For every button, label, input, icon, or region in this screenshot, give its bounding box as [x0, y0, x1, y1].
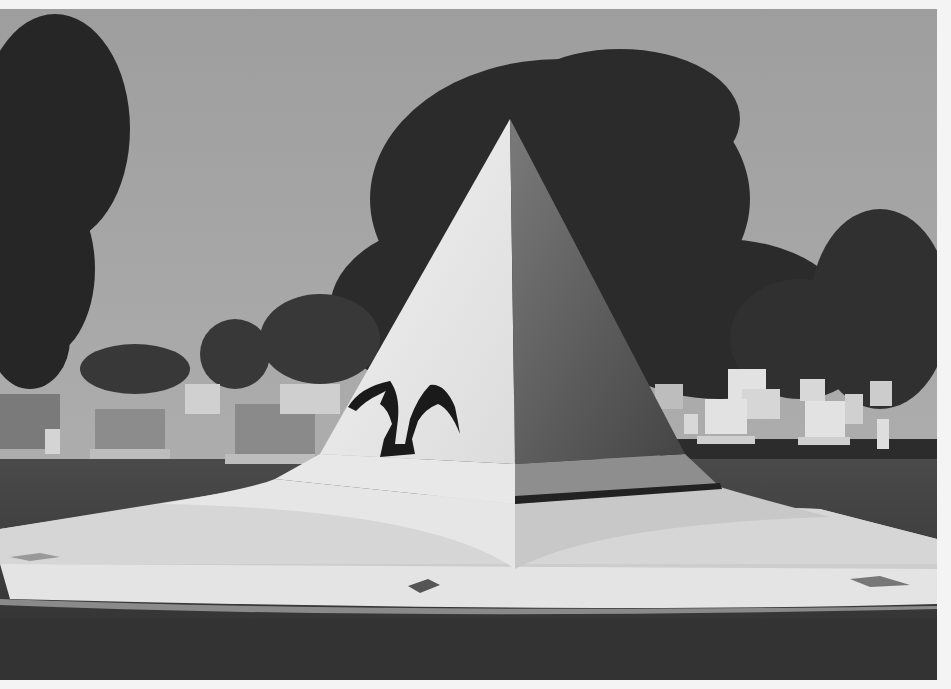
monument-scene	[0, 9, 937, 680]
foreground-grass	[0, 619, 937, 680]
photograph	[0, 9, 937, 680]
